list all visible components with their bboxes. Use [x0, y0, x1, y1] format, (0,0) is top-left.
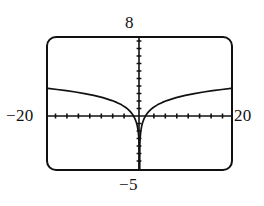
x-max-label: 20	[234, 107, 252, 124]
graphing-calculator-figure: 8 −5 −20 20	[0, 0, 264, 206]
y-max-label: 8	[125, 14, 134, 31]
y-min-label: −5	[119, 176, 138, 193]
x-min-label: −20	[6, 107, 34, 124]
